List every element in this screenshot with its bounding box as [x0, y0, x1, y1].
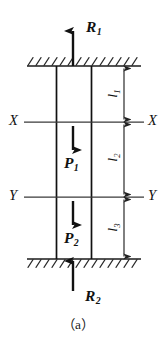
force-label-r1-sub: 1 — [97, 26, 102, 37]
force-label-r2-base: R — [85, 287, 95, 304]
dimension-label-l1-base: l — [105, 94, 120, 98]
force-label-p1: P1 — [64, 155, 78, 171]
force-label-r1: R1 — [86, 19, 101, 35]
force-label-p1-base: P — [64, 154, 73, 171]
diagram-canvas — [0, 0, 168, 341]
force-label-p2-sub: 2 — [74, 237, 79, 248]
dimension-label-l2: l2 — [106, 149, 120, 167]
section-label-xx-right: X — [148, 113, 157, 128]
figure-caption: （a） — [62, 313, 94, 333]
top-support-hatching — [28, 58, 137, 66]
top-support — [27, 58, 141, 66]
dimension-label-l3-sub: 3 — [112, 223, 122, 227]
engineering-diagram-figure: R1 P1 P2 R2 X X Y Y l1 l2 l3 （a） — [0, 0, 168, 341]
force-label-p2: P2 — [64, 230, 78, 246]
dimension-label-l3-base: l — [105, 228, 120, 232]
dimension-label-l1-sub: 1 — [112, 89, 122, 93]
section-label-yy-right: Y — [148, 188, 156, 203]
section-label-xx-left: X — [9, 113, 18, 128]
dimension-label-l3: l3 — [106, 219, 120, 237]
force-label-r1-base: R — [86, 18, 96, 35]
dimension-label-l2-sub: 2 — [112, 153, 122, 157]
dimension-label-l2-base: l — [105, 158, 120, 162]
force-label-r2-sub: 2 — [96, 295, 101, 306]
dimension-label-l1: l1 — [106, 85, 120, 103]
force-label-r2: R2 — [85, 288, 100, 304]
bottom-support — [27, 259, 141, 267]
force-label-p1-sub: 1 — [74, 162, 79, 173]
bottom-support-hatching — [28, 260, 137, 268]
section-label-yy-left: Y — [9, 188, 17, 203]
force-label-p2-base: P — [64, 229, 73, 246]
